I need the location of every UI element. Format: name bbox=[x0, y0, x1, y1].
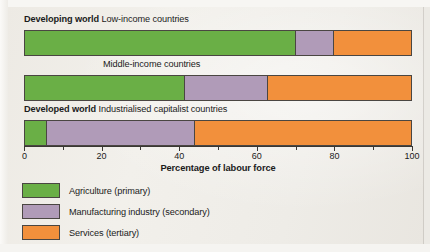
x-axis-tick-label-80: 80 bbox=[329, 151, 339, 161]
x-axis-minor-tick-50 bbox=[218, 146, 219, 150]
x-axis-minor-tick-10 bbox=[63, 146, 64, 150]
x-axis-tick-label-40: 40 bbox=[174, 151, 184, 161]
row-label-middle-income: Middle-income countries bbox=[103, 59, 200, 70]
stacked-bar-chart: Developing world Low-income countries Mi… bbox=[0, 0, 430, 252]
x-axis-tick-label-20: 20 bbox=[97, 151, 107, 161]
row-name-low-income: Low-income countries bbox=[101, 14, 188, 24]
row-label-low-income: Developing world Low-income countries bbox=[24, 14, 189, 25]
bar-segment-services bbox=[333, 30, 412, 56]
bar-segment-manufacturing bbox=[184, 75, 268, 101]
row-name-middle-income: Middle-income countries bbox=[103, 59, 200, 69]
bar-middle-income bbox=[24, 75, 412, 101]
x-axis-minor-tick-90 bbox=[373, 146, 374, 150]
x-axis-tick-label-100: 100 bbox=[404, 151, 419, 161]
legend-label-agriculture: Agriculture (primary) bbox=[69, 186, 150, 196]
legend-item-agriculture: Agriculture (primary) bbox=[22, 180, 210, 201]
row-group-developing-world: Developing world bbox=[24, 14, 99, 24]
x-axis-tick-label-0: 0 bbox=[22, 151, 27, 161]
bar-segment-agriculture bbox=[24, 30, 296, 56]
chart-legend: Agriculture (primary)Manufacturing indus… bbox=[22, 180, 210, 243]
legend-label-services: Services (tertiary) bbox=[69, 228, 139, 238]
legend-swatch-agriculture bbox=[22, 183, 60, 198]
x-axis-title: Percentage of labour force bbox=[24, 163, 412, 173]
bar-segment-agriculture bbox=[24, 75, 185, 101]
row-label-industrialised: Developed world Industrialised capitalis… bbox=[24, 104, 227, 115]
row-group-developed-world: Developed world bbox=[24, 104, 96, 114]
chart-page: Developing world Low-income countries Mi… bbox=[0, 0, 430, 252]
bar-low-income bbox=[24, 30, 412, 56]
x-axis-minor-tick-30 bbox=[140, 146, 141, 150]
bar-segment-agriculture bbox=[24, 120, 47, 146]
bar-industrialised bbox=[24, 120, 412, 146]
x-axis-minor-tick-70 bbox=[296, 146, 297, 150]
legend-item-manufacturing: Manufacturing industry (secondary) bbox=[22, 201, 210, 222]
legend-item-services: Services (tertiary) bbox=[22, 222, 210, 243]
bar-segment-services bbox=[267, 75, 412, 101]
row-name-industrialised: Industrialised capitalist countries bbox=[98, 104, 227, 114]
bar-segment-manufacturing bbox=[295, 30, 335, 56]
legend-label-manufacturing: Manufacturing industry (secondary) bbox=[69, 207, 210, 217]
legend-swatch-services bbox=[22, 225, 60, 240]
bar-segment-services bbox=[194, 120, 412, 146]
bar-segment-manufacturing bbox=[46, 120, 194, 146]
legend-swatch-manufacturing bbox=[22, 204, 60, 219]
x-axis-tick-label-60: 60 bbox=[252, 151, 262, 161]
